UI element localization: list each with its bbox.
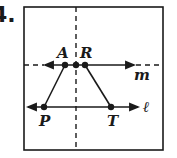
- point-T: [108, 104, 114, 110]
- label-l: ℓ: [143, 98, 149, 116]
- geometry-figure: A R P T m ℓ: [0, 0, 177, 158]
- label-T: T: [107, 112, 120, 130]
- point-A: [62, 62, 68, 68]
- segment-AP: [44, 65, 65, 107]
- label-P: P: [38, 112, 51, 130]
- label-m: m: [134, 66, 150, 84]
- point-center: [73, 62, 79, 68]
- segment-RT: [85, 65, 111, 107]
- label-A: A: [55, 44, 69, 62]
- point-P: [41, 104, 47, 110]
- label-R: R: [79, 44, 92, 62]
- point-R: [82, 62, 88, 68]
